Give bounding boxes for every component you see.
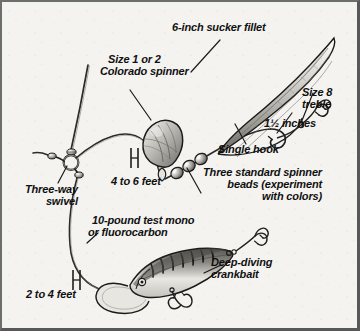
label-mono-line1: 10-pound test mono <box>92 214 194 227</box>
label-treble-line1: Size 8 <box>302 86 332 99</box>
label-2-to-4-feet: 2 to 4 feet <box>26 288 76 301</box>
label-crankbait-line2: crankbait <box>211 268 259 281</box>
label-spinner-beads-line3: with colors) <box>191 190 322 203</box>
label-three-way-line2: swivel <box>14 195 78 208</box>
label-treble-line2: treble <box>302 98 331 111</box>
label-colorado-spinner-line1: Size 1 or 2 <box>108 53 161 66</box>
diagram-frame: 6-inch sucker fillet Size 1 or 2 Colorad… <box>0 0 360 331</box>
label-sucker-fillet: 6-inch sucker fillet <box>172 21 266 34</box>
label-crankbait-line1: Deep-diving <box>211 256 272 269</box>
label-spinner-beads-line1: Three standard spinner <box>191 166 322 179</box>
label-spinner-beads-line2: beads (experiment <box>191 178 322 191</box>
label-mono-line2: or fluorocarbon <box>88 226 168 239</box>
label-colorado-spinner-line2: Colorado spinner <box>100 65 189 78</box>
label-1-half-inches: 1½ inches <box>264 117 316 130</box>
label-4-to-6-feet: 4 to 6 feet <box>111 175 161 188</box>
label-single-hook: Single hook <box>218 143 279 156</box>
label-three-way-line1: Three-way <box>14 183 78 196</box>
diagram-canvas: 6-inch sucker fillet Size 1 or 2 Colorad… <box>5 5 357 328</box>
